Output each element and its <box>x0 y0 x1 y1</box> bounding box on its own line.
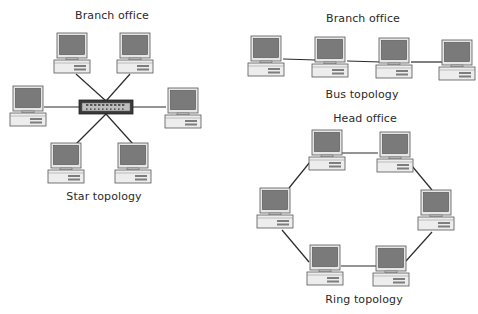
bus-link <box>347 61 381 62</box>
bus-caption-label: Bus topology <box>326 88 399 101</box>
bus-link <box>283 59 316 60</box>
computers <box>10 33 475 286</box>
star-hub-switch <box>79 100 133 114</box>
network-topology-diagram <box>0 0 478 314</box>
ring-title-label: Head office <box>333 112 397 125</box>
computer-icon <box>54 33 90 73</box>
star-link <box>76 114 106 144</box>
computer-icon <box>376 38 412 78</box>
star-link <box>106 114 133 144</box>
computer-icon <box>117 33 153 73</box>
computer-icon <box>307 245 343 285</box>
computer-icon <box>309 130 345 170</box>
computer-icon <box>165 88 201 128</box>
computer-icon <box>248 36 284 76</box>
star-link <box>106 74 130 101</box>
ring-link <box>406 232 432 261</box>
computer-icon <box>439 40 475 80</box>
computer-icon <box>48 143 84 183</box>
ring-link <box>282 230 309 262</box>
computer-icon <box>257 188 293 228</box>
star-link <box>76 74 106 101</box>
ring-caption-label: Ring topology <box>325 293 402 306</box>
ring-link <box>289 162 310 188</box>
computer-icon <box>115 143 151 183</box>
computer-icon <box>418 190 454 230</box>
bus-title-label: Branch office <box>326 12 400 25</box>
switch-icon <box>79 100 133 114</box>
star-caption-label: Star topology <box>66 190 141 203</box>
computer-icon <box>10 86 46 126</box>
computer-icon <box>312 37 348 77</box>
computer-icon <box>377 132 413 172</box>
star-title-label: Branch office <box>75 9 149 22</box>
computer-icon <box>373 246 409 286</box>
